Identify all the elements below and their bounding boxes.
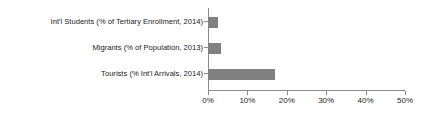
plot-area xyxy=(208,8,405,90)
x-axis-tick xyxy=(326,91,327,95)
x-axis-tick-label: 40% xyxy=(346,96,386,106)
bar-chart: Int'l Students (% of Tertiary Enrollment… xyxy=(0,0,423,119)
category-label-tourists: Tourists (% Int'l Arrivals, 2014) xyxy=(101,69,203,79)
category-label-intl-students: Int'l Students (% of Tertiary Enrollment… xyxy=(51,17,203,27)
x-axis-tick xyxy=(247,91,248,95)
bar-tourists xyxy=(208,69,275,80)
x-axis-tick xyxy=(208,91,209,95)
x-axis-line xyxy=(208,90,405,91)
x-axis-tick xyxy=(366,91,367,95)
bar-migrants xyxy=(208,43,221,54)
x-axis-tick-label: 30% xyxy=(306,96,346,106)
x-axis-tick-label: 20% xyxy=(267,96,307,106)
x-axis-tick-label: 50% xyxy=(385,96,423,106)
x-axis-tick-label: 10% xyxy=(227,96,267,106)
category-label-migrants: Migrants (% of Population, 2013) xyxy=(92,43,203,53)
bar-intl-students xyxy=(208,17,218,28)
x-axis-tick xyxy=(287,91,288,95)
x-axis-tick-label: 0% xyxy=(188,96,228,106)
x-axis-tick xyxy=(405,91,406,95)
